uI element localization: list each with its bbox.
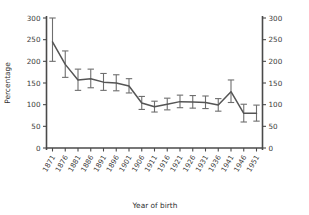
y-tick-label-left: 100 (27, 100, 41, 109)
x-axis-title: Year of birth (132, 201, 178, 210)
y-tick-label-right: 100 (269, 100, 283, 109)
right-axis: 050100150200250300 (263, 14, 283, 153)
line-chart-with-error-bars: 050100150200250300 050100150200250300 18… (0, 0, 309, 215)
y-tick-label-right: 300 (269, 14, 283, 23)
y-tick-label-left: 0 (36, 144, 41, 153)
x-axis: 1871187618811886189118961901190619111916… (41, 148, 262, 173)
y-tick-label-left: 300 (27, 14, 41, 23)
chart-container: 050100150200250300 050100150200250300 18… (0, 0, 309, 215)
y-tick-label-right: 250 (269, 35, 283, 44)
y-tick-label-left: 200 (27, 57, 41, 66)
y-tick-label-right: 50 (269, 122, 279, 131)
y-tick-label-left: 250 (27, 35, 41, 44)
y-tick-label-right: 0 (269, 144, 274, 153)
y-tick-label-left: 150 (27, 79, 41, 88)
y-tick-label-right: 200 (269, 57, 283, 66)
x-tick-label: 1951 (245, 154, 261, 173)
y-tick-label-left: 50 (31, 122, 41, 131)
y-tick-label-right: 150 (269, 79, 283, 88)
y-axis-title: Percentage (3, 62, 12, 104)
left-axis: 050100150200250300 (27, 14, 47, 153)
